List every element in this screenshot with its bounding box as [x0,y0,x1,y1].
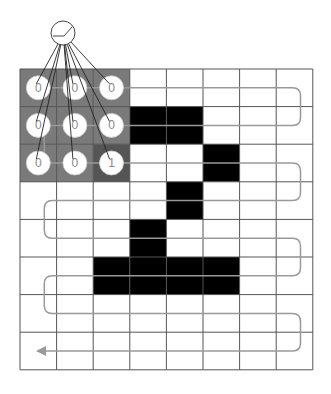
weight-value: 0 [35,156,42,170]
neuron-circle [51,21,75,45]
neuron-node [51,21,75,45]
convolution-diagram: 000000001 [0,0,331,394]
kernel-weight-circles: 000000001 [26,76,123,175]
weight-value: 0 [35,81,42,95]
weight-value: 0 [35,118,42,132]
